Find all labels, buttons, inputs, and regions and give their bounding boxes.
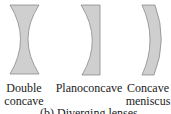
figure-caption: (b) Diverging lenses xyxy=(40,107,138,114)
planoconcave-lens-icon xyxy=(81,5,100,75)
lens-diagram xyxy=(0,0,171,90)
concave-meniscus-label: Concave meniscus xyxy=(125,82,171,108)
double-concave-lens-icon xyxy=(10,5,39,74)
planoconcave-label: Planoconcave xyxy=(53,82,125,95)
concave-meniscus-lens-icon xyxy=(142,5,161,75)
double-concave-label: Double concave xyxy=(2,82,46,108)
